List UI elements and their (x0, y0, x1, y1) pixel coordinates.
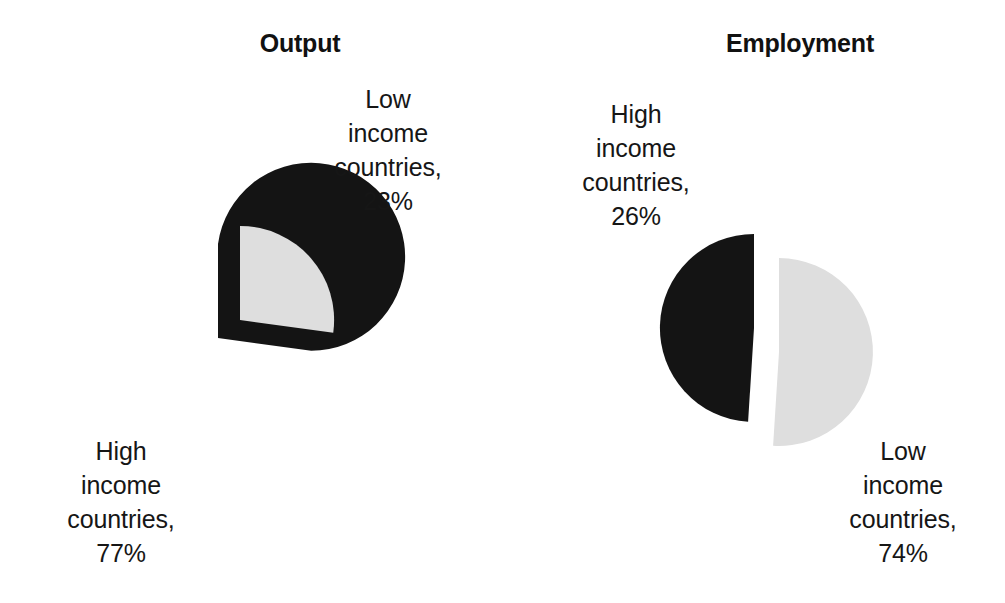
pie-slice-employment-low-income (773, 258, 873, 446)
chart-title-employment: Employment (600, 29, 1000, 58)
pie-label-output-high-income: High income countries, 77% (30, 434, 212, 570)
pie-label-output-low-income: Low income countries, 23% (300, 82, 476, 218)
pie-label-employment-high-income: High income countries, 26% (548, 97, 724, 233)
pie-slice-employment-high-income (660, 234, 754, 422)
pie-slice-output-low-income (240, 226, 334, 333)
pie-label-employment-low-income: Low income countries, 74% (812, 434, 994, 570)
chart-title-output: Output (100, 29, 500, 58)
pie-chart-figure: Output Employment Low income countries, … (0, 0, 1005, 603)
